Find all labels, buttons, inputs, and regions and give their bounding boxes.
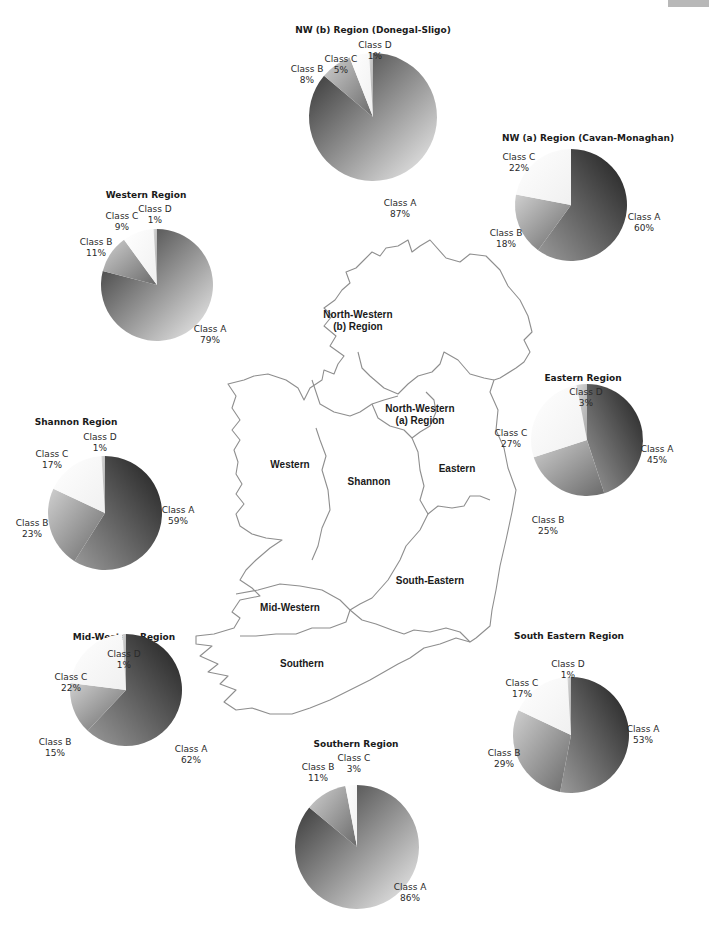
pie-title: Eastern Region (544, 373, 621, 383)
border-southern (350, 610, 470, 642)
slice-label: Class D (107, 649, 141, 659)
border-southeast (350, 514, 428, 610)
pie-southern: Southern RegionClass A86%Class B11%Class… (295, 739, 427, 909)
pie-title: Southern Region (313, 739, 398, 749)
slice-label: Class B (39, 737, 72, 747)
pie-eastern: Eastern RegionClass A45%Class B25%Class … (495, 373, 675, 536)
map-region-label: Southern (280, 658, 324, 669)
pie-southeastern: South Eastern RegionClass A53%Class B29%… (488, 631, 661, 793)
map-region-label: Mid-Western (260, 602, 320, 613)
map-region-label: (b) Region (333, 321, 382, 332)
slice-percent: 45% (647, 455, 667, 465)
slice-label: Class D (83, 432, 117, 442)
map-region-label: Western (270, 459, 309, 470)
slice-percent: 87% (390, 209, 410, 219)
map-region-label: South-Eastern (396, 575, 464, 586)
slice-percent: 1% (117, 660, 132, 670)
slice-label: Class A (394, 882, 428, 892)
slice-percent: 15% (45, 748, 65, 758)
slice-percent: 1% (148, 215, 163, 225)
slice-percent: 9% (115, 222, 130, 232)
slice-percent: 8% (300, 75, 315, 85)
pie-midwestern: Mid-Western RegionClass A62%Class B15%Cl… (39, 632, 209, 765)
slice-label: Class C (106, 211, 139, 221)
border-nwb (358, 352, 494, 394)
slice-percent: 27% (501, 439, 521, 449)
slice-label: Class C (506, 678, 539, 688)
slice-label: Class A (628, 212, 662, 222)
slice-label: Class D (358, 40, 392, 50)
slice-label: Class C (36, 449, 69, 459)
slice-percent: 1% (93, 443, 108, 453)
slice-label: Class B (16, 518, 49, 528)
pie-title: NW (a) Region (Cavan-Monaghan) (502, 133, 674, 143)
slice-label: Class C (338, 753, 371, 763)
map-region-label: North-Western (323, 309, 392, 320)
slice-percent: 3% (579, 398, 594, 408)
border-western-shannon (312, 428, 330, 560)
slice-label: Class B (488, 748, 521, 758)
pie-nwa: NW (a) Region (Cavan-Monaghan)Class A60%… (490, 133, 674, 261)
pie-shannon: Shannon RegionClass A59%Class B23%Class … (16, 417, 196, 570)
slice-percent: 86% (400, 893, 420, 903)
pie-charts: NW (b) Region (Donegal-Sligo)Class A87%C… (16, 25, 675, 909)
slice-label: Class A (641, 444, 675, 454)
pie-western: Western RegionClass A79%Class B11%Class … (80, 190, 228, 345)
slice-label: Class D (569, 387, 603, 397)
slice-percent: 60% (634, 223, 654, 233)
slice-percent: 22% (61, 683, 81, 693)
slice-percent: 11% (86, 248, 106, 258)
border-shannon-eastern (412, 438, 490, 514)
slice-label: Class C (55, 672, 88, 682)
slice-label: Class A (384, 198, 418, 208)
slice-percent: 17% (42, 460, 62, 470)
slice-label: Class A (627, 724, 661, 734)
slice-percent: 25% (538, 526, 558, 536)
slice-label: Class B (80, 237, 113, 247)
pie-title: Shannon Region (35, 417, 118, 427)
map-region-label: Shannon (348, 476, 391, 487)
slice-label: Class B (302, 762, 335, 772)
slice-percent: 18% (496, 239, 516, 249)
slice-percent: 62% (181, 755, 201, 765)
pie-title: Western Region (106, 190, 187, 200)
slice-label: Class B (532, 515, 565, 525)
map-region-label: Eastern (439, 463, 476, 474)
map-region-label: (a) Region (396, 415, 445, 426)
slice-label: Class D (551, 659, 585, 669)
slice-percent: 17% (512, 689, 532, 699)
slice-label: Class B (490, 228, 523, 238)
slice-percent: 23% (22, 529, 42, 539)
slice-percent: 59% (168, 516, 188, 526)
slice-percent: 29% (494, 759, 514, 769)
pie-nwb: NW (b) Region (Donegal-Sligo)Class A87%C… (291, 25, 451, 219)
slice-percent: 1% (368, 51, 383, 61)
slice-percent: 5% (334, 65, 349, 75)
slice-percent: 79% (200, 335, 220, 345)
pie-title: NW (b) Region (Donegal-Sligo) (295, 25, 451, 35)
slice-label: Class A (162, 505, 196, 515)
pie-title: South Eastern Region (514, 631, 624, 641)
slice-percent: 22% (509, 163, 529, 173)
slice-label: Class B (291, 64, 324, 74)
slice-label: Class C (495, 428, 528, 438)
slice-label: Class D (138, 204, 172, 214)
slice-label: Class A (175, 744, 209, 754)
slice-percent: 53% (633, 735, 653, 745)
regional-pie-map: North-Western(b) RegionNorth-Western(a) … (0, 0, 709, 926)
slice-label: Class A (194, 324, 228, 334)
slice-percent: 11% (308, 773, 328, 783)
map-region-label: North-Western (385, 403, 454, 414)
slice-percent: 1% (561, 670, 576, 680)
slice-label: Class C (503, 152, 536, 162)
map-region-labels: North-Western(b) RegionNorth-Western(a) … (260, 309, 475, 669)
slice-label: Class C (325, 54, 358, 64)
slice-percent: 3% (347, 764, 362, 774)
